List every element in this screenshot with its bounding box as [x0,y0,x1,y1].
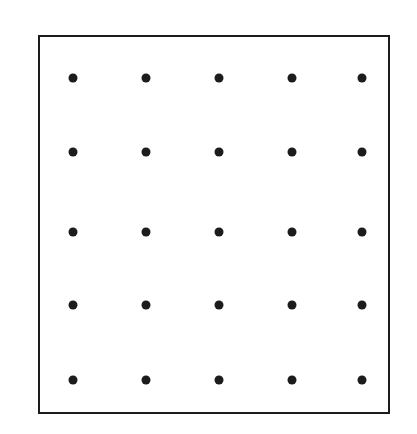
lattice-dot-r3-c4 [288,228,297,237]
rectangular-border [38,35,390,414]
lattice-dot-r1-c2 [142,74,151,83]
lattice-dot-r1-c5 [358,74,367,83]
lattice-dot-r2-c3 [215,148,224,157]
lattice-dot-r1-c1 [69,74,78,83]
lattice-dot-r3-c5 [358,228,367,237]
lattice-dot-r5-c3 [215,376,224,385]
lattice-dot-r1-c3 [215,74,224,83]
lattice-dot-r5-c4 [288,376,297,385]
lattice-dot-r4-c5 [358,301,367,310]
lattice-dot-r2-c1 [69,148,78,157]
lattice-dot-r2-c4 [288,148,297,157]
lattice-dot-r2-c5 [358,148,367,157]
lattice-dot-r3-c3 [215,228,224,237]
lattice-dot-r5-c2 [142,376,151,385]
lattice-dot-r3-c2 [142,228,151,237]
lattice-dot-r5-c1 [69,376,78,385]
lattice-dot-r2-c2 [142,148,151,157]
lattice-dot-r4-c2 [142,301,151,310]
lattice-dot-r4-c1 [69,301,78,310]
figure-canvas [0,0,417,434]
lattice-dot-r3-c1 [69,228,78,237]
lattice-dot-r5-c5 [358,376,367,385]
lattice-dot-r4-c4 [288,301,297,310]
dot-lattice [40,37,388,412]
lattice-dot-r1-c4 [288,74,297,83]
lattice-dot-r4-c3 [215,301,224,310]
